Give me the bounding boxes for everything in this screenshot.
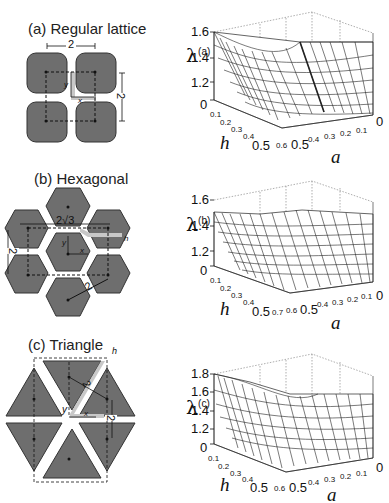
z-tick: 1.8 xyxy=(191,366,209,381)
a-tick: 0.4 xyxy=(308,478,319,487)
schematic-regular-lattice: (a) Regular lattice 2 2 y x xyxy=(0,0,190,168)
z-tick: 0 xyxy=(200,263,207,278)
a-tick: 0.5 xyxy=(300,302,318,317)
z-tick: 0 xyxy=(200,440,207,455)
h-tick: 0.2 xyxy=(218,462,229,471)
h-tick: 0.3 xyxy=(231,291,242,300)
panel-c: (c) Triangle 2 2 h y x xyxy=(0,332,389,500)
a-tick: 0.3 xyxy=(332,298,343,307)
h-tick: 0.5 xyxy=(252,138,270,153)
a-tick: 0.5 xyxy=(291,137,309,152)
a-tick: 0.6 xyxy=(274,484,285,493)
h-axis-label: h xyxy=(220,132,230,154)
y-axis-label: y xyxy=(62,238,66,247)
z-tick: 0 xyxy=(200,97,207,112)
x-axis-label: x xyxy=(78,96,82,105)
a-tick: 0.2 xyxy=(347,295,358,304)
height-dimension-label: 2 xyxy=(115,93,127,99)
panel-b: (b) Hexagonal 2√3 2 2 h y xyxy=(0,166,389,334)
width-dimension-label: 2√3 xyxy=(56,214,74,226)
hexagonal-diagram xyxy=(0,166,190,334)
width-dimension-label: 2 xyxy=(66,38,76,50)
gap-h-label: h xyxy=(112,346,117,356)
z-tick: 1.2 xyxy=(191,75,209,90)
height-dimension-label: 2 xyxy=(7,248,19,254)
z-tick: 1.4 xyxy=(191,403,209,418)
y-axis-label: y xyxy=(62,404,67,415)
h-tick: 0.5 xyxy=(250,480,268,495)
z-tick: 1.4 xyxy=(191,218,209,233)
h-tick: 0.3 xyxy=(231,125,242,134)
a-tick: 0.4 xyxy=(317,300,328,309)
a-axis-label: a xyxy=(331,146,341,168)
z-tick: 1.2 xyxy=(191,421,209,436)
z-tick: 1.2 xyxy=(191,244,209,259)
surface-plot-c: λ(c) 1.8 1.6 1.4 1.2 0 0.1 0.2 0.3 0.4 0… xyxy=(190,332,389,500)
a-tick: 0.6 xyxy=(276,141,287,150)
a-tick: 0.2 xyxy=(340,129,351,138)
h-tick: 0.2 xyxy=(220,118,231,127)
a-axis-label: a xyxy=(327,484,337,503)
a-axis-label: a xyxy=(331,312,341,334)
surface-plot-b: λ(b) 1.6 1.4 1.2 0 0.1 0.2 0.3 0.4 0.5 h… xyxy=(190,166,389,334)
panel-a: (a) Regular lattice 2 2 y x xyxy=(0,0,389,168)
z-tick: 1.6 xyxy=(191,192,209,207)
y-axis-label: y xyxy=(64,80,68,89)
a-tick: 0.7 xyxy=(272,308,283,317)
z-tick: 1.6 xyxy=(191,384,209,399)
z-tick: 1.6 xyxy=(191,24,209,39)
a-tick: 0 xyxy=(376,288,383,303)
a-tick: 0.5 xyxy=(289,480,307,495)
h-tick: 0.2 xyxy=(220,284,231,293)
a-tick: 0.3 xyxy=(324,132,335,141)
lattice-diagram xyxy=(0,0,190,168)
schematic-triangle: (c) Triangle 2 2 h y x xyxy=(0,332,190,500)
h-axis-label: h xyxy=(220,298,230,320)
a-tick: 0.1 xyxy=(356,469,367,478)
a-tick: 0.4 xyxy=(308,135,319,144)
a-tick: 0.1 xyxy=(356,126,367,135)
h-tick: 0.5 xyxy=(252,304,270,319)
h-tick: 0.3 xyxy=(230,469,241,478)
a-tick: 0.2 xyxy=(340,472,351,481)
gap-h-label: h xyxy=(124,234,128,243)
x-axis-label: x xyxy=(84,409,88,418)
surface-plot-a: λ(a) 1.6 1.4 1.2 0 0.1 0.2 0.3 0.4 0.5 h… xyxy=(190,0,389,168)
a-tick: 0.3 xyxy=(324,475,335,484)
z-tick: 1.4 xyxy=(191,50,209,65)
h-axis-label: h xyxy=(220,474,230,496)
triangle-diagram xyxy=(0,332,190,500)
a-tick: 0.1 xyxy=(361,292,372,301)
a-tick: 0.6 xyxy=(286,306,297,315)
x-axis-label: x xyxy=(80,246,84,255)
a-tick: 0 xyxy=(376,114,383,129)
schematic-hexagonal: (b) Hexagonal 2√3 2 2 h y xyxy=(0,166,190,334)
height-dimension-label: 2 xyxy=(105,415,117,421)
a-tick: 0 xyxy=(376,460,383,475)
